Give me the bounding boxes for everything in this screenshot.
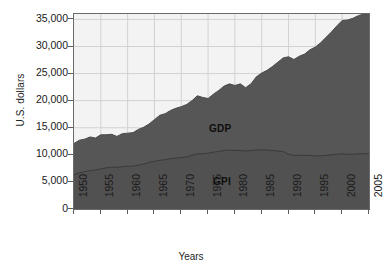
y-tick-label: 10,000 bbox=[6, 148, 68, 159]
x-tick-mark bbox=[288, 209, 289, 214]
x-tick-mark bbox=[234, 209, 235, 214]
x-tick-mark bbox=[153, 209, 154, 214]
x-tick-label: 1955 bbox=[104, 174, 115, 214]
x-tick-label: 2005 bbox=[373, 174, 384, 214]
x-tick-mark bbox=[127, 209, 128, 214]
y-tick-label: 5,000 bbox=[6, 175, 68, 186]
x-tick-mark bbox=[314, 209, 315, 214]
x-tick-mark bbox=[73, 209, 74, 214]
x-tick-mark bbox=[261, 209, 262, 214]
x-tick-label: 1980 bbox=[238, 174, 249, 214]
x-tick-label: 1960 bbox=[131, 174, 142, 214]
series-label-gdp: GDP bbox=[209, 124, 232, 134]
x-tick-label: 1985 bbox=[265, 174, 276, 214]
y-tick-label: 0 bbox=[6, 203, 68, 214]
x-tick-label: 1990 bbox=[292, 174, 303, 214]
x-tick-mark bbox=[341, 209, 342, 214]
x-tick-label: 1970 bbox=[185, 174, 196, 214]
y-tick-label: 25,000 bbox=[6, 67, 68, 78]
x-tick-label: 1995 bbox=[319, 174, 330, 214]
x-tick-label: 1965 bbox=[158, 174, 169, 214]
x-tick-mark bbox=[207, 209, 208, 214]
x-tick-mark bbox=[368, 209, 369, 214]
y-tick-label: 20,000 bbox=[6, 94, 68, 105]
x-tick-label: 1950 bbox=[78, 174, 89, 214]
y-tick-label: 30,000 bbox=[6, 40, 68, 51]
x-axis-title: Years bbox=[0, 252, 382, 262]
x-tick-mark bbox=[180, 209, 181, 214]
x-tick-mark bbox=[100, 209, 101, 214]
x-tick-label: 1975 bbox=[212, 174, 223, 214]
y-tick-label: 35,000 bbox=[6, 13, 68, 24]
y-tick-label: 15,000 bbox=[6, 121, 68, 132]
x-tick-label: 2000 bbox=[346, 174, 357, 214]
